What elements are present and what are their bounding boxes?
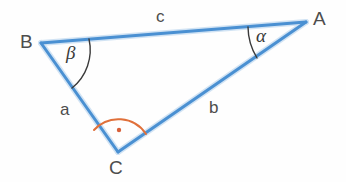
angle-label-beta: β [66, 43, 75, 62]
vertex-label-c: C [109, 158, 123, 177]
triangle-halo [41, 22, 306, 152]
triangle-side-c [41, 22, 306, 43]
angle-label-alpha: α [256, 26, 266, 45]
side-label-a: a [60, 101, 69, 118]
right-angle-dot-icon [117, 128, 121, 132]
triangle-side-b [118, 22, 306, 152]
triangle-side-a [41, 43, 118, 152]
triangle-diagram: A B C a b c α β [0, 0, 346, 182]
side-label-b: b [209, 99, 218, 116]
triangle-figure [0, 0, 346, 182]
vertex-label-a: A [313, 9, 326, 28]
vertex-label-b: B [20, 32, 33, 51]
side-label-c: c [156, 8, 165, 25]
